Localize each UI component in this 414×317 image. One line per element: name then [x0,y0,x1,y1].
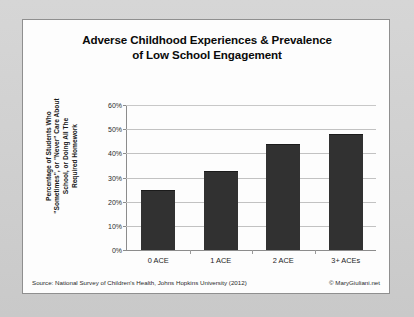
y-axis-tick-mark [123,226,126,227]
y-axis-tick-mark [123,178,126,179]
y-axis-title-line-2: "Sometimes", or "Never" Care About [53,98,62,213]
x-axis-category-label: 3+ ACEs [315,256,378,265]
y-axis-tick-mark [123,250,126,251]
bar-slot: 2 ACE [252,105,315,250]
plot-area: 0%10%20%30%40%50%60% 0 ACE1 ACE2 ACE3+ A… [126,105,376,250]
x-axis-category-label: 1 ACE [190,256,253,265]
y-axis-tick-label: 20% [108,198,122,205]
bar[interactable] [204,171,238,250]
bar[interactable] [266,144,300,250]
y-axis-tick-label: 40% [108,150,122,157]
y-axis-title-line-1: Percentage of Students Who [45,98,54,213]
bar[interactable] [141,190,175,250]
gridline [126,250,376,251]
bar-slot: 3+ ACEs [315,105,378,250]
y-axis-tick-mark [123,153,126,154]
bar[interactable] [329,134,363,250]
y-axis-tick-label: 10% [108,222,122,229]
y-axis-tick-mark [123,105,126,106]
y-axis-title-container: Percentage of Students Who "Sometimes", … [42,76,82,236]
x-axis-category-label: 0 ACE [127,256,190,265]
x-axis-tick-mark [190,250,191,254]
bar-slot: 0 ACE [127,105,190,250]
chart-title-line-2: of Low School Engagement [33,48,381,63]
y-axis-title-line-3: School, or Doing All The [62,98,71,213]
x-axis-tick-mark [252,250,253,254]
chart-title: Adverse Childhood Experiences & Prevalen… [33,33,381,62]
copyright-note: © MaryGiuliani.net [329,279,380,286]
chart-card: Adverse Childhood Experiences & Prevalen… [22,19,390,294]
bar-slot: 1 ACE [190,105,253,250]
y-axis-tick-mark [123,129,126,130]
y-axis-title: Percentage of Students Who "Sometimes", … [45,98,79,213]
y-axis-title-line-4: Required Homework [71,98,80,213]
source-note: Source: National Survey of Children's He… [32,279,247,286]
x-axis-category-label: 2 ACE [252,256,315,265]
x-axis-tick-mark [315,250,316,254]
y-axis-tick-label: 60% [108,102,122,109]
bars-group: 0 ACE1 ACE2 ACE3+ ACEs [127,105,376,250]
y-axis-tick-mark [123,202,126,203]
y-axis-tick-label: 30% [108,174,122,181]
y-axis-tick-label: 50% [108,126,122,133]
chart-title-line-1: Adverse Childhood Experiences & Prevalen… [82,33,332,46]
scanned-page-background: Adverse Childhood Experiences & Prevalen… [0,0,414,317]
y-axis-tick-label: 0% [112,247,122,254]
